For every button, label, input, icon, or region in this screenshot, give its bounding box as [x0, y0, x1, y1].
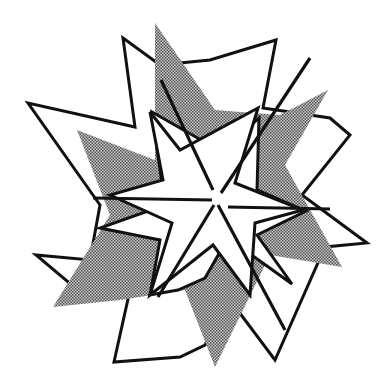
star-figure: [0, 0, 390, 387]
